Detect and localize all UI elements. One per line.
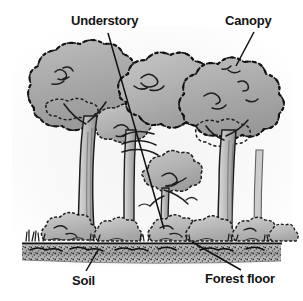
forest-layers-diagram: Understory Canopy Soil Forest floor [0, 0, 303, 301]
forest-illustration [0, 0, 303, 301]
label-understory: Understory [71, 14, 138, 27]
trunk-middle [124, 130, 136, 232]
label-canopy: Canopy [225, 14, 271, 27]
label-soil: Soil [72, 274, 95, 287]
label-forest-floor: Forest floor [205, 272, 275, 285]
